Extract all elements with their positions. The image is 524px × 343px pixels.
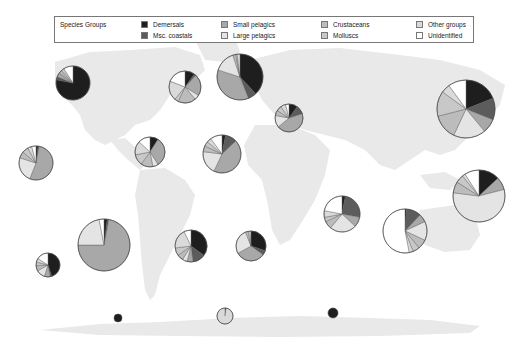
pie-antarctic_pacific [114, 314, 122, 322]
pie-slice-demersals [114, 314, 122, 322]
pie-se_pacific [78, 219, 130, 271]
legend-swatch [221, 21, 228, 28]
legend-swatch [141, 21, 148, 28]
legend-item-crustaceans: Crustaceans [321, 20, 370, 28]
pie-sw_atlantic [175, 230, 207, 262]
legend-swatch [141, 32, 148, 39]
africa [244, 125, 330, 245]
pie-nw_pacific [437, 80, 495, 138]
legend-swatch [321, 32, 328, 39]
pie-w_central_pacific [453, 170, 505, 222]
pie-nw_atlantic [169, 71, 201, 103]
pie-ne_pacific_north [56, 66, 90, 100]
pie-antarctic_indian [328, 308, 338, 318]
legend-swatch [321, 21, 328, 28]
pie-e_central_atlantic [203, 135, 241, 173]
legend-item-misc-coastals: Msc. coastals [141, 31, 192, 39]
legend-swatch [416, 32, 423, 39]
pie-se_pacific_small [36, 253, 60, 277]
pie-slice-demersals [328, 308, 338, 318]
legend-item-other-groups: Other groups [416, 20, 466, 28]
legend-item-molluscs: Molluscs [321, 31, 358, 39]
legend-item-unidentified: Unidentified [416, 31, 462, 39]
pie-ne_atlantic [217, 54, 263, 100]
pie-w_central_atlantic [135, 137, 165, 167]
world-map [0, 0, 524, 343]
se-asia-islands [420, 172, 460, 190]
pie-e_indian [383, 209, 427, 253]
legend-item-large-pelagics: Large pelagics [221, 31, 275, 39]
pie-w_indian [324, 196, 360, 232]
pie-e_central_pacific [19, 146, 53, 180]
legend-title: Species Groups [60, 21, 106, 28]
legend-swatch [416, 21, 423, 28]
pie-se_atlantic [236, 231, 266, 261]
legend-swatch [221, 32, 228, 39]
pie-antarctic_atlantic [217, 308, 233, 324]
legend-item-demersals: Demersals [141, 20, 184, 28]
legend: Species Groups Demersals Msc. coastals S… [54, 16, 474, 43]
antarctica [40, 316, 480, 337]
pie-slice-misc_coastals [342, 196, 360, 217]
landmasses [40, 38, 505, 337]
legend-item-small-pelagics: Small pelagics [221, 20, 275, 28]
pie-mediterranean [275, 104, 303, 132]
